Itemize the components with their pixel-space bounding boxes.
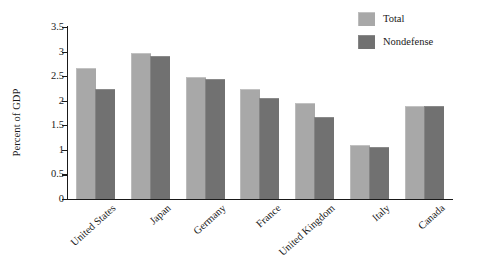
- y-axis-title: Percent of GDP: [8, 62, 26, 182]
- y-axis-tick-label: 2: [59, 95, 64, 106]
- x-axis-label: France: [254, 203, 282, 230]
- bar-group: [68, 27, 123, 199]
- y-axis-title-label: Percent of GDP: [12, 88, 23, 156]
- y-axis-tick-label: 2.5: [51, 71, 64, 82]
- legend-swatch-total: [358, 12, 375, 26]
- x-axis-label: Canada: [416, 203, 446, 232]
- x-axis-label: United States: [70, 203, 119, 248]
- chart-legend: TotalNondefense: [358, 12, 476, 58]
- y-axis-tick-label: 3.5: [51, 22, 64, 33]
- bar-total: [240, 89, 260, 199]
- bar-nondefense: [150, 56, 170, 200]
- bar-total: [405, 106, 425, 199]
- legend-swatch-nondefense: [358, 35, 375, 49]
- bar-group: [123, 27, 178, 199]
- bar-nondefense: [424, 106, 444, 199]
- bar-nondefense: [95, 89, 115, 199]
- x-axis-label: Germany: [192, 203, 228, 237]
- x-axis-label: United Kingdom: [278, 203, 338, 258]
- bar-nondefense: [205, 79, 225, 199]
- bar-group: [232, 27, 287, 199]
- legend-label: Nondefense: [383, 37, 433, 48]
- legend-label: Total: [383, 14, 404, 25]
- y-axis-tick-label: 0.5: [51, 169, 64, 180]
- bar-nondefense: [369, 147, 389, 199]
- bar-total: [186, 77, 206, 199]
- bar-group: [177, 27, 232, 199]
- bar-nondefense: [259, 98, 279, 199]
- legend-item: Total: [358, 12, 476, 26]
- y-axis-tick-label: 3: [59, 46, 64, 57]
- bar-total: [131, 53, 151, 199]
- legend-item: Nondefense: [358, 35, 476, 49]
- bar-nondefense: [314, 117, 334, 199]
- bar-chart: Percent of GDP 00.511.522.533.5 United S…: [0, 0, 481, 275]
- bar-total: [76, 68, 96, 199]
- x-axis-label: Japan: [148, 203, 173, 227]
- y-axis-tick-label: 1.5: [51, 120, 64, 131]
- y-axis-tick-label: 0: [59, 194, 64, 205]
- x-axis-line: [67, 199, 453, 200]
- x-axis-label: Italy: [371, 203, 392, 224]
- bar-group: [287, 27, 342, 199]
- bar-total: [350, 145, 370, 199]
- bar-total: [295, 103, 315, 199]
- y-axis-tick-label: 1: [59, 145, 64, 156]
